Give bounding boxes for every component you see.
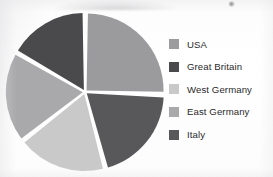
pie-slice-group xyxy=(6,13,164,171)
chart-legend: USA Great Britain West Germany East Germ… xyxy=(169,33,273,146)
legend-swatch-icon xyxy=(169,39,179,49)
legend-item-west-germany[interactable]: West Germany xyxy=(169,78,273,101)
legend-label: Italy xyxy=(187,130,205,140)
legend-label: West Germany xyxy=(187,85,252,95)
legend-item-italy[interactable]: Italy xyxy=(169,123,273,146)
pie-chart xyxy=(0,0,170,177)
legend-swatch-icon xyxy=(169,62,179,72)
pie-chart-area xyxy=(0,0,170,177)
pie-slice[interactable] xyxy=(87,13,164,91)
legend-item-great-britain[interactable]: Great Britain xyxy=(169,56,273,79)
legend-swatch-icon xyxy=(169,107,179,117)
scan-artifact-speck xyxy=(228,1,235,7)
legend-swatch-icon xyxy=(169,130,179,140)
legend-label: East Germany xyxy=(187,107,250,117)
legend-swatch-icon xyxy=(169,84,179,94)
legend-label: Great Britain xyxy=(187,62,242,72)
legend-item-usa[interactable]: USA xyxy=(169,33,273,56)
legend-label: USA xyxy=(187,40,207,50)
legend-item-east-germany[interactable]: East Germany xyxy=(169,101,273,124)
